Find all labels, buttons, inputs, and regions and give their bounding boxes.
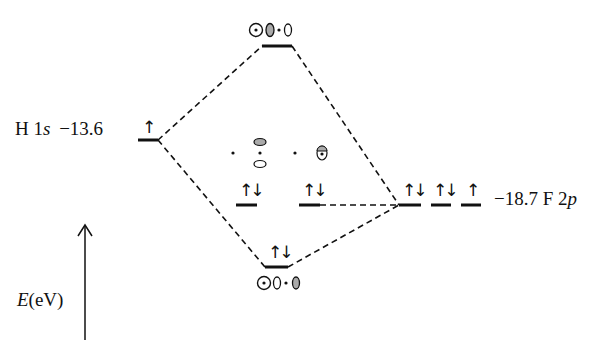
nonbonding-2-electrons: ↑↓ (302, 180, 325, 200)
h-element-label: H 1 (15, 118, 43, 139)
f2p-label: −18.7 F 2p (494, 188, 577, 210)
energy-axis-var: E (17, 289, 29, 310)
h-energy-label: −13.6 (59, 118, 103, 139)
h1s-electron-arrow: ↑ (142, 117, 153, 137)
f-orbital-label: p (568, 188, 578, 209)
bonding-electrons: ↑↓ (268, 242, 291, 262)
h1s-label: H 1s −13.6 (15, 118, 103, 140)
nonbonding-1-electrons: ↑↓ (239, 180, 262, 200)
h-orbital-label: s (43, 118, 50, 139)
antibonding-orbital-pictogram (250, 24, 292, 37)
f2p-2-electrons: ↑↓ (433, 180, 456, 200)
nonbonding-orbital-1-pictogram (231, 139, 266, 168)
f2p-3-electrons: ↑ (466, 180, 477, 200)
f2p-1-electrons: ↑↓ (402, 180, 425, 200)
nonbonding-orbital-2-pictogram (293, 146, 327, 160)
energy-axis-unit: (eV) (29, 289, 64, 310)
correlation-lines (158, 46, 399, 267)
energy-axis (78, 225, 92, 340)
f-energy-label: −18.7 F 2 (494, 188, 568, 209)
energy-axis-label: E(eV) (17, 289, 63, 311)
bonding-orbital-pictogram (258, 277, 300, 290)
mo-diagram-canvas (0, 0, 610, 350)
